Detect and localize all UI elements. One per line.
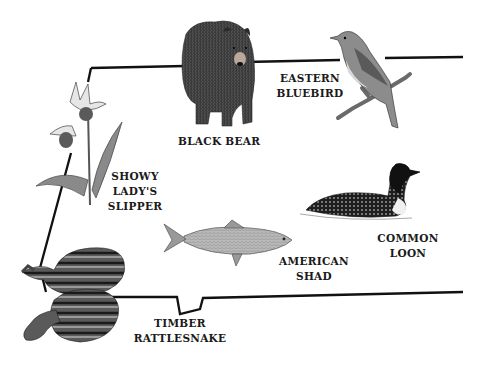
label-black-bear: BLACK BEAR [178,134,258,149]
black-bear-illustration [182,21,255,126]
label-american-shad: AMERICAN SHAD [274,254,354,284]
shad-body [184,227,292,254]
shad-dorsal-fin [224,220,244,228]
outline-northwest-corner [88,68,91,82]
american-shad-illustration [164,220,292,266]
state-wildlife-diagram [0,0,484,365]
slipper-leaf-left [36,175,88,196]
timber-rattlesnake-illustration [22,248,125,342]
bear-nose [237,62,243,66]
label-showy-ladys-slipper: SHOWY LADY'S SLIPPER [100,169,170,214]
label-line: LOON [368,246,448,261]
label-timber-rattlesnake: TIMBER RATTLESNAKE [130,316,230,346]
label-line: SHAD [274,269,354,284]
label-line: TIMBER [130,316,230,331]
snake-lower-coil [50,289,118,342]
shad-eye [283,238,286,241]
snake-upper-coil [22,248,125,295]
label-line: AMERICAN [274,254,354,269]
label-line: RATTLESNAKE [130,331,230,346]
slipper-petals-top [70,82,106,110]
common-loon-illustration [300,164,420,220]
bluebird-eye [344,37,346,39]
outline-south-edge [99,292,463,314]
label-line: SLIPPER [100,199,170,214]
label-line: SHOWY [100,169,170,184]
shad-belly-fin [232,254,242,266]
label-common-loon: COMMON LOON [368,231,448,261]
label-line: BLACK BEAR [178,134,258,149]
slipper-pouch-upper [79,107,93,121]
label-line: LADY'S [100,184,170,199]
shad-tail [164,224,186,252]
bear-eye-left [233,47,235,49]
bear-body [182,21,255,126]
slipper-pouch-lower [59,132,73,148]
label-line: BLUEBIRD [270,86,350,101]
label-line: EASTERN [270,71,350,86]
outline-border [91,57,463,68]
bear-eye-right [245,47,247,49]
slipper-stem [88,110,90,205]
label-line: COMMON [368,231,448,246]
label-eastern-bluebird: EASTERN BLUEBIRD [270,71,350,101]
